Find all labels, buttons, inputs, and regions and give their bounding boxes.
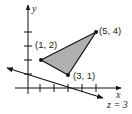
vertex-label: (3, 1) (73, 70, 95, 81)
vertex-label: (1, 2) (35, 39, 57, 50)
line-label: z = 3 (106, 99, 128, 110)
vertex-point (94, 30, 98, 34)
vertex-point (39, 58, 43, 62)
triangle-diagram: y x (1, 2) (5, 4) (3, 1) z = 3 (0, 0, 132, 114)
vertex-label: (5, 4) (99, 25, 121, 36)
y-axis-label: y (31, 3, 37, 14)
vertex-point (66, 73, 70, 77)
